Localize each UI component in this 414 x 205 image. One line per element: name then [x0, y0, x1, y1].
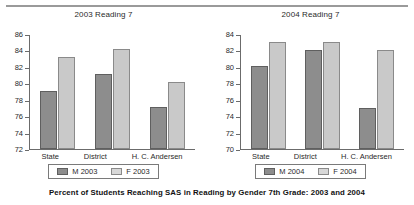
legend-2004: M 2004F 2004	[207, 164, 414, 179]
legend-box-2003: M 2003F 2003	[48, 164, 158, 179]
y-tick-mark	[25, 84, 29, 85]
y-tick-label: 80	[226, 63, 234, 72]
chart-panel-2003: 2003 Reading 7 7274767880828486 StateDis…	[0, 8, 207, 183]
bar-groups-2003	[30, 35, 195, 149]
y-tick-mark	[236, 134, 240, 135]
y-tick-mark	[25, 51, 29, 52]
y-tick-mark	[25, 150, 29, 151]
legend-swatch-icon	[264, 168, 275, 175]
y-tick-mark	[236, 117, 240, 118]
y-tick-mark	[25, 35, 29, 36]
legend-label: M 2004	[279, 167, 304, 176]
y-tick-label: 82	[226, 46, 234, 55]
y-tick-label: 76	[226, 96, 234, 105]
legend-box-2004: M 2004F 2004	[255, 164, 365, 179]
bar-f-2003-state[interactable]	[58, 57, 75, 149]
bar-m-2003-state[interactable]	[40, 91, 57, 149]
y-tick-mark	[25, 101, 29, 102]
y-tick-label: 72	[15, 145, 23, 154]
bar-f-2003-h-c-andersen[interactable]	[168, 82, 185, 149]
legend-item[interactable]: F 2004	[318, 167, 356, 176]
legend-swatch-icon	[57, 168, 68, 175]
category-labels-2004: StateDistrictH. C. Andersen	[240, 152, 404, 161]
y-tick-label: 82	[15, 63, 23, 72]
y-tick-mark	[236, 68, 240, 69]
bar-m-2004-district[interactable]	[305, 50, 322, 149]
legend-label: M 2003	[72, 167, 97, 176]
y-tick-mark	[236, 84, 240, 85]
y-tick-label: 78	[15, 96, 23, 105]
y-tick-label: 84	[226, 30, 234, 39]
bar-m-2004-h-c-andersen[interactable]	[359, 108, 376, 149]
y-tick-label: 80	[15, 79, 23, 88]
chart-panel-2004: 2004 Reading 7 7072747678808284 StateDis…	[207, 8, 414, 183]
legend-item[interactable]: M 2003	[57, 167, 97, 176]
bar-group	[305, 35, 340, 149]
legend-swatch-icon	[318, 168, 329, 175]
y-tick-label: 78	[226, 79, 234, 88]
bar-m-2003-district[interactable]	[95, 74, 112, 149]
category-label: H. C. Andersen	[341, 152, 392, 161]
bar-group	[40, 35, 75, 149]
plot-area-2003: 7274767880828486	[29, 35, 195, 150]
bar-f-2004-district[interactable]	[323, 42, 340, 149]
bar-groups-2004	[241, 35, 404, 149]
figure-caption: Percent of Students Reaching SAS in Read…	[0, 188, 414, 197]
y-tick-mark	[25, 68, 29, 69]
category-label: District	[294, 152, 317, 161]
chart-title-2003: 2003 Reading 7	[0, 10, 207, 19]
legend-item[interactable]: F 2003	[111, 167, 149, 176]
legend-label: F 2004	[333, 167, 356, 176]
chart-title-2004: 2004 Reading 7	[207, 10, 414, 19]
y-tick-label: 86	[15, 30, 23, 39]
legend-swatch-icon	[111, 168, 122, 175]
bar-f-2004-h-c-andersen[interactable]	[377, 50, 394, 149]
y-tick-label: 70	[226, 145, 234, 154]
y-tick-mark	[236, 35, 240, 36]
bar-f-2004-state[interactable]	[269, 42, 286, 149]
y-tick-mark	[25, 117, 29, 118]
bar-group	[95, 35, 130, 149]
charts-row: 2003 Reading 7 7274767880828486 StateDis…	[0, 8, 414, 183]
category-labels-2003: StateDistrictH. C. Andersen	[29, 152, 195, 161]
plot-area-2004: 7072747678808284	[240, 35, 404, 150]
y-tick-mark	[25, 134, 29, 135]
bar-m-2003-h-c-andersen[interactable]	[150, 107, 167, 149]
category-label: State	[41, 152, 59, 161]
y-tick-label: 76	[15, 112, 23, 121]
y-tick-label: 74	[15, 129, 23, 138]
y-tick-label: 84	[15, 46, 23, 55]
y-tick-label: 74	[226, 112, 234, 121]
y-tick-70: 70	[240, 150, 244, 151]
bar-group	[251, 35, 286, 149]
y-tick-72: 72	[29, 150, 33, 151]
category-label: District	[84, 152, 107, 161]
category-label: State	[252, 152, 270, 161]
legend-2003: M 2003F 2003	[0, 164, 207, 179]
x-axis-2003	[29, 149, 195, 150]
x-axis-2004	[240, 149, 404, 150]
bar-f-2003-district[interactable]	[113, 49, 130, 149]
bar-group	[359, 35, 394, 149]
legend-item[interactable]: M 2004	[264, 167, 304, 176]
y-tick-label: 72	[226, 129, 234, 138]
y-tick-mark	[236, 51, 240, 52]
category-label: H. C. Andersen	[132, 152, 183, 161]
bar-m-2004-state[interactable]	[251, 66, 268, 149]
y-tick-mark	[236, 101, 240, 102]
top-divider-rule	[6, 5, 408, 7]
y-tick-mark	[236, 150, 240, 151]
legend-label: F 2003	[126, 167, 149, 176]
bar-group	[150, 35, 185, 149]
